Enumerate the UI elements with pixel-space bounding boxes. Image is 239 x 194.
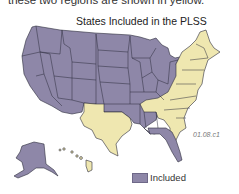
legend-label-included: Included [150, 172, 186, 183]
hawaii [59, 148, 92, 172]
map-legend: Included [132, 172, 186, 183]
legend-swatch-included [132, 173, 148, 183]
us-map [0, 0, 239, 194]
figure-code: 01.08.c1 [193, 131, 220, 138]
alaska [14, 142, 58, 178]
